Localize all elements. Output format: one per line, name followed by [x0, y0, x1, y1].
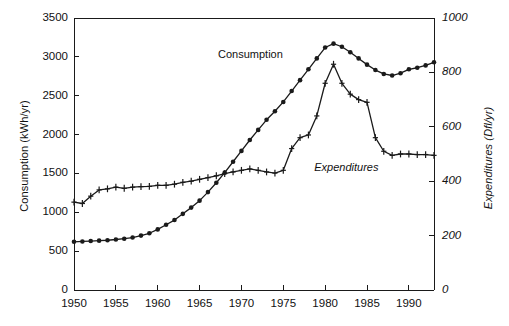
data-point — [406, 151, 411, 158]
series-label-consumption: Consumption — [218, 48, 283, 60]
data-point — [248, 138, 253, 143]
data-point — [155, 182, 160, 189]
data-point — [206, 190, 211, 195]
data-point — [105, 185, 110, 192]
data-point — [172, 218, 177, 223]
data-point — [231, 159, 236, 164]
data-point — [390, 73, 395, 78]
data-point — [130, 235, 135, 240]
data-point — [356, 56, 361, 61]
data-point — [314, 113, 319, 120]
data-point — [398, 151, 403, 158]
data-point — [71, 199, 76, 206]
data-point — [172, 181, 177, 188]
y-tick-left-0: 0 — [22, 283, 68, 295]
data-point — [197, 198, 202, 203]
data-point — [205, 174, 210, 181]
data-point — [348, 50, 353, 55]
data-point — [390, 152, 395, 159]
data-point — [122, 185, 127, 192]
data-point — [147, 231, 152, 236]
data-point — [189, 178, 194, 185]
y-tick-left-2500: 2500 — [22, 89, 68, 101]
data-point — [147, 183, 152, 190]
data-point — [247, 166, 252, 173]
data-point — [214, 180, 219, 185]
data-point — [415, 151, 420, 158]
data-point — [264, 118, 269, 123]
data-point — [97, 238, 102, 243]
data-point — [239, 167, 244, 174]
data-point — [239, 149, 244, 154]
data-point — [364, 99, 369, 106]
data-point — [272, 170, 277, 177]
data-point — [415, 65, 420, 70]
data-point — [356, 96, 361, 103]
series-markers-expenditures — [71, 61, 436, 207]
data-point — [281, 100, 286, 105]
data-point — [273, 109, 278, 114]
data-point — [130, 184, 135, 191]
y-tick-left-2000: 2000 — [22, 128, 68, 140]
y-tick-right-600: 600 — [442, 120, 482, 132]
data-point — [139, 233, 144, 238]
data-point — [114, 237, 119, 242]
y-tick-right-200: 200 — [442, 229, 482, 241]
data-point — [281, 167, 286, 174]
data-point — [314, 56, 319, 61]
y-tick-right-1000: 1000 — [442, 11, 482, 23]
data-point — [180, 179, 185, 186]
data-point — [423, 63, 428, 68]
data-point — [398, 71, 403, 76]
data-point — [138, 183, 143, 190]
series-label-expenditures: Expenditures — [314, 161, 378, 173]
data-point — [323, 45, 328, 50]
data-point — [365, 62, 370, 67]
data-point — [197, 176, 202, 183]
y-tick-left-1000: 1000 — [22, 205, 68, 217]
data-point — [163, 182, 168, 189]
data-point — [256, 128, 261, 133]
y-tick-left-3000: 3000 — [22, 50, 68, 62]
y-tick-right-400: 400 — [442, 174, 482, 186]
series-markers-consumption — [72, 41, 437, 244]
data-point — [298, 78, 303, 83]
data-point — [88, 239, 93, 244]
data-point — [331, 61, 336, 68]
data-point — [214, 172, 219, 179]
data-point — [306, 132, 311, 139]
data-point — [432, 60, 437, 65]
data-point — [373, 68, 378, 73]
y-tick-left-1500: 1500 — [22, 166, 68, 178]
data-point — [80, 239, 85, 244]
data-point — [155, 227, 160, 232]
data-point — [431, 152, 436, 159]
data-point — [189, 205, 194, 210]
data-point — [331, 41, 336, 46]
chart-figure: Consumption (kWh/yr) Expenditures (Dfl/y… — [0, 0, 509, 326]
data-point — [181, 212, 186, 217]
data-point — [113, 184, 118, 191]
data-point — [256, 167, 261, 174]
data-point — [105, 238, 110, 243]
series-line-consumption — [74, 44, 434, 242]
series-line-expenditures — [74, 64, 434, 203]
y-tick-left-500: 500 — [22, 244, 68, 256]
y-tick-right-800: 800 — [442, 65, 482, 77]
data-point — [164, 222, 169, 227]
data-point — [264, 169, 269, 176]
data-point — [306, 67, 311, 72]
y-axis-right-title: Expenditures (Dfl/yr) — [482, 88, 494, 228]
data-point — [72, 240, 77, 245]
data-point — [381, 72, 386, 77]
data-point — [97, 187, 102, 194]
x-tick-1990: 1990 — [384, 297, 434, 309]
data-point — [289, 89, 294, 94]
data-point — [340, 44, 345, 49]
data-series — [71, 41, 436, 244]
y-tick-right-0: 0 — [442, 283, 482, 295]
data-point — [122, 236, 127, 241]
data-point — [230, 169, 235, 176]
data-point — [407, 67, 412, 72]
data-point — [323, 80, 328, 87]
